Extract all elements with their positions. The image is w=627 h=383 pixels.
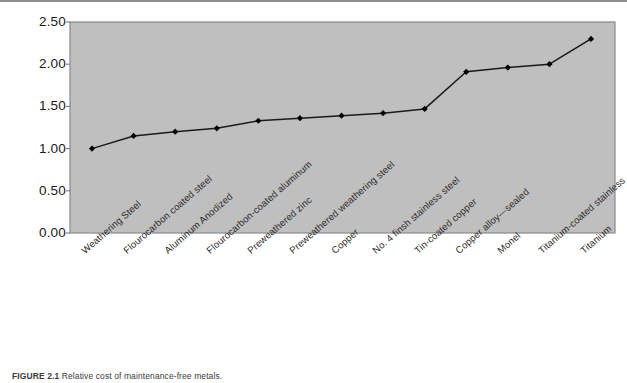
plot-background-panel bbox=[70, 22, 615, 233]
y-axis-tick-label: 0.50 bbox=[20, 184, 66, 198]
figure-caption: FIGURE 2.1 Relative cost of maintenance-… bbox=[12, 371, 222, 381]
line-chart-svg bbox=[0, 0, 627, 360]
y-axis-tick-label: 2.50 bbox=[20, 15, 66, 29]
y-axis-tick-labels: 0.000.501.001.502.002.50 bbox=[16, 0, 66, 360]
y-axis-tick-label: 1.00 bbox=[20, 142, 66, 156]
y-axis-tick-label: 0.00 bbox=[20, 226, 66, 240]
y-axis-tick-label: 1.50 bbox=[20, 99, 66, 113]
figure-container: 0.000.501.001.502.002.50 Weathering Stee… bbox=[0, 0, 627, 383]
y-axis-tick-label: 2.00 bbox=[20, 57, 66, 71]
figure-caption-label: FIGURE 2.1 bbox=[12, 371, 59, 381]
chart-plot-region: 0.000.501.001.502.002.50 bbox=[0, 0, 627, 360]
figure-caption-text: Relative cost of maintenance-free metals… bbox=[62, 371, 222, 381]
